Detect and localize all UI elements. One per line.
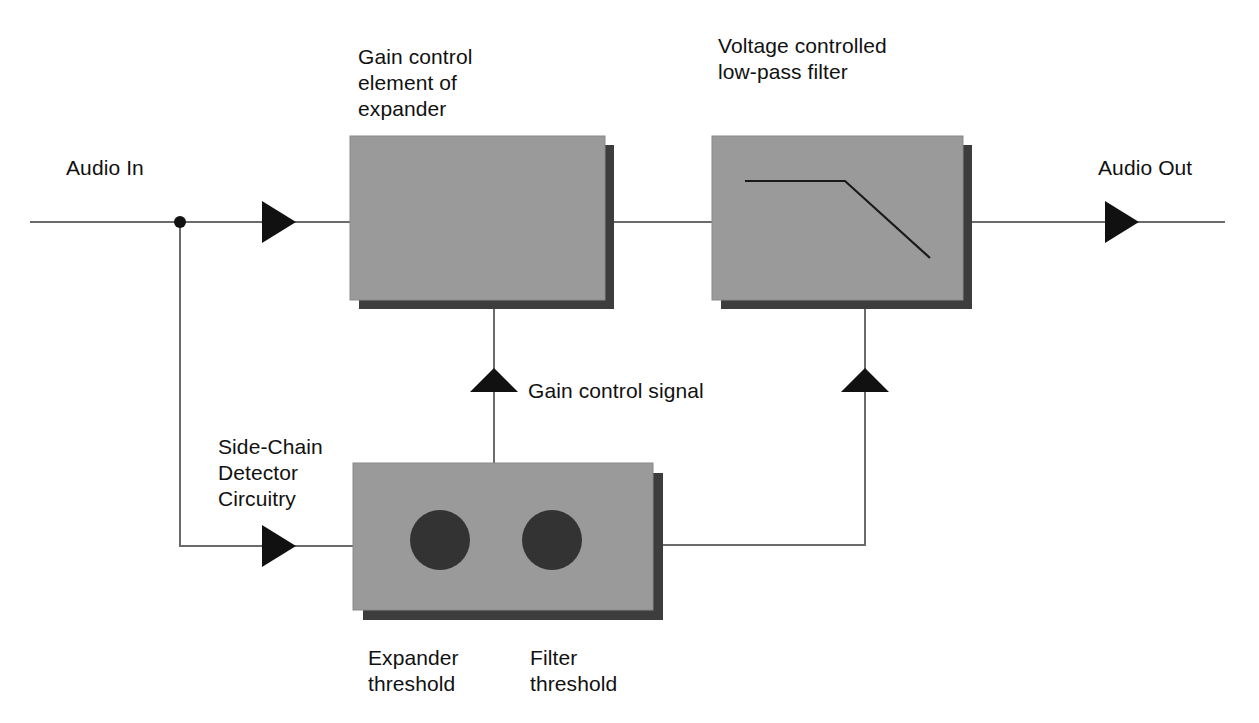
- audio-in-arrow-icon: [262, 201, 296, 243]
- side-chain-detector-title-line1: Side-Chain: [218, 434, 323, 460]
- voltage-controlled-filter-block[interactable]: [712, 136, 972, 309]
- filter-control-arrow-icon: [841, 368, 889, 392]
- gain-control-signal-label: Gain control signal: [528, 378, 704, 404]
- gain-control-element-block-face: [350, 136, 605, 300]
- audio-out-arrow-icon: [1105, 201, 1139, 243]
- side-chain-detector-block[interactable]: [353, 463, 663, 620]
- block-diagram-canvas: Audio In Audio Out Gain control element …: [0, 0, 1259, 723]
- expander-threshold-label: Expander threshold: [368, 645, 459, 697]
- voltage-controlled-filter-block-face: [712, 136, 963, 300]
- audio-in-label: Audio In: [66, 155, 144, 181]
- voltage-controlled-filter-title-line2: low-pass filter: [718, 59, 887, 85]
- voltage-controlled-filter-title: Voltage controlled low-pass filter: [718, 33, 887, 85]
- gain-control-element-title: Gain control element of expander: [358, 44, 472, 122]
- side-chain-detector-block-face: [353, 463, 653, 610]
- gain-control-element-block[interactable]: [350, 136, 614, 309]
- gain-control-element-title-line2: element of: [358, 70, 472, 96]
- expander-threshold-label-line1: Expander: [368, 645, 459, 671]
- expander-threshold-label-line2: threshold: [368, 671, 459, 697]
- filter-control-signal-line: [653, 300, 865, 545]
- gain-control-element-title-line3: expander: [358, 96, 472, 122]
- side-chain-detector-title: Side-Chain Detector Circuitry: [218, 434, 323, 512]
- filter-threshold-knob[interactable]: [522, 510, 582, 570]
- side-chain-input-arrow-icon: [262, 525, 296, 567]
- gain-control-element-title-line1: Gain control: [358, 44, 472, 70]
- side-chain-detector-title-line2: Detector: [218, 460, 323, 486]
- filter-threshold-label: Filter threshold: [530, 645, 617, 697]
- gain-control-arrow-icon: [470, 368, 518, 392]
- audio-out-label: Audio Out: [1098, 155, 1192, 181]
- diagram-graphics-layer: [0, 0, 1259, 723]
- voltage-controlled-filter-title-line1: Voltage controlled: [718, 33, 887, 59]
- input-junction-dot: [174, 216, 186, 228]
- filter-threshold-label-line2: threshold: [530, 671, 617, 697]
- filter-threshold-label-line1: Filter: [530, 645, 617, 671]
- side-chain-detector-title-line3: Circuitry: [218, 486, 323, 512]
- expander-threshold-knob[interactable]: [410, 510, 470, 570]
